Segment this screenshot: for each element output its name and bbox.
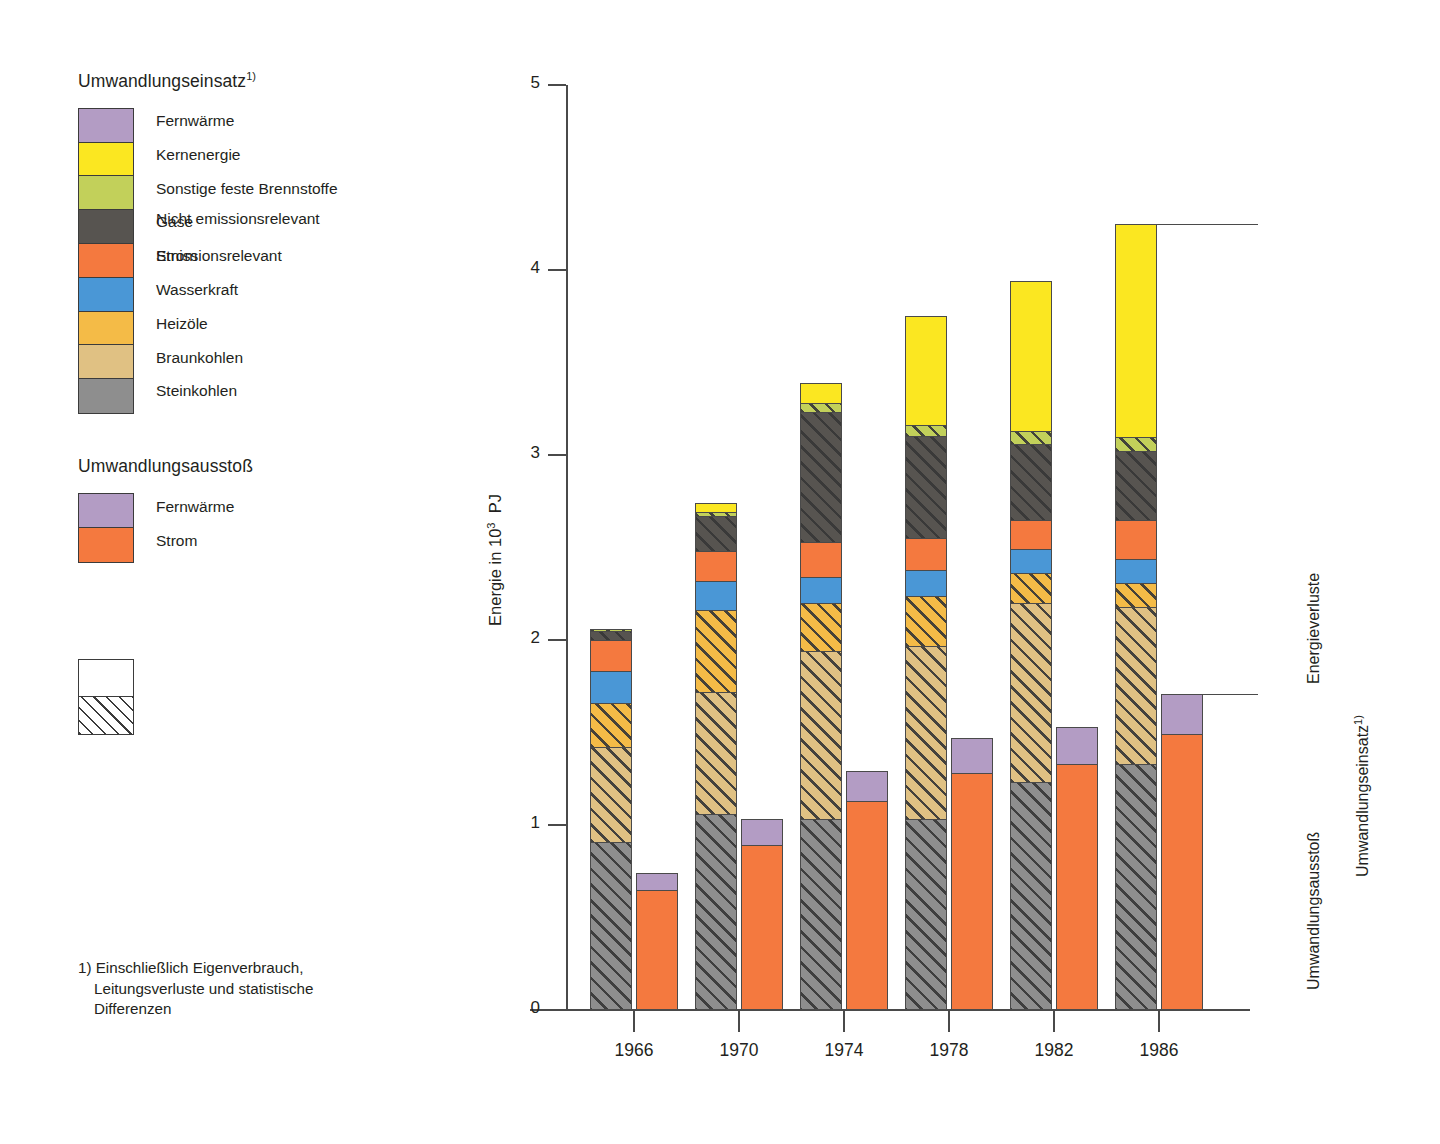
bar-segment-sonstige-feste-brennstoffe <box>906 426 946 437</box>
y-tick-label-1: 1 <box>512 813 540 833</box>
y-tick-1 <box>548 824 566 826</box>
output-bar-1974 <box>846 771 888 1010</box>
bar-segment-strom <box>696 552 736 582</box>
bar-segment-fernw-rme <box>1162 695 1202 736</box>
x-tick-1974 <box>843 1010 845 1032</box>
bar-segment-gase <box>801 413 841 543</box>
y-tick-3 <box>548 454 566 456</box>
annotation-umwandlungseinsatz-text: Umwandlungseinsatz <box>1354 725 1371 877</box>
y-axis-line <box>566 85 568 1011</box>
annotation-umwandlungsausstoss: Umwandlungsausstoß <box>1305 832 1323 990</box>
y-tick-label-2: 2 <box>512 628 540 648</box>
bar-segment-fernw-rme <box>1057 728 1097 765</box>
bar-segment-sonstige-feste-brennstoffe <box>1011 432 1051 445</box>
y-tick-5 <box>548 84 566 86</box>
bar-segment-strom <box>801 543 841 578</box>
y-tick-label-4: 4 <box>512 258 540 278</box>
input-bar-1970 <box>695 503 737 1010</box>
output-bar-1982 <box>1056 727 1098 1010</box>
bar-segment-strom <box>847 802 887 1010</box>
bar-segment-sonstige-feste-brennstoffe <box>801 404 841 413</box>
input-bar-1978 <box>905 316 947 1010</box>
bar-segment-gase <box>1116 452 1156 520</box>
x-tick-1970 <box>738 1010 740 1032</box>
y-tick-label-5: 5 <box>512 73 540 93</box>
bar-segment-strom <box>1011 521 1051 551</box>
bar-segment-kernenergie <box>801 384 841 404</box>
y-axis-exponent: 3 <box>485 523 497 529</box>
bar-segment-heiz-le <box>696 611 736 692</box>
y-axis-title-text: Energie in 10 <box>486 529 504 626</box>
bar-segment-wasserkraft <box>591 672 631 703</box>
bar-segment-steinkohlen <box>906 820 946 1010</box>
footnote-marker-2: 1) <box>1352 715 1364 725</box>
bar-segment-gase <box>1011 445 1051 521</box>
bar-segment-braunkohlen <box>591 748 631 842</box>
x-tick-1966 <box>633 1010 635 1032</box>
bar-segment-steinkohlen <box>696 815 736 1010</box>
bar-segment-strom <box>1162 735 1202 1010</box>
bar-segment-fernw-rme <box>847 772 887 802</box>
x-tick-label-1966: 1966 <box>589 1040 679 1061</box>
x-tick-label-1978: 1978 <box>904 1040 994 1061</box>
bar-segment-heiz-le <box>1116 584 1156 608</box>
bar-segment-braunkohlen <box>1116 608 1156 765</box>
bar-segment-fernw-rme <box>637 874 677 891</box>
bar-segment-braunkohlen <box>696 693 736 815</box>
bar-segment-strom <box>1057 765 1097 1010</box>
y-tick-0 <box>548 1009 566 1011</box>
bar-segment-kernenergie <box>1116 225 1156 438</box>
y-tick-4 <box>548 269 566 271</box>
bar-segment-braunkohlen <box>1011 604 1051 783</box>
bracket-total-input <box>1157 224 1258 225</box>
annotation-umwandlungseinsatz: Umwandlungseinsatz1) <box>1352 715 1372 877</box>
bar-segment-strom <box>1116 521 1156 560</box>
bar-segment-kernenergie <box>906 317 946 426</box>
bar-segment-gase <box>591 632 631 641</box>
bar-segment-steinkohlen <box>1116 765 1156 1010</box>
bar-segment-steinkohlen <box>801 820 841 1010</box>
input-bar-1982 <box>1010 281 1052 1010</box>
y-tick-label-0: 0 <box>512 998 540 1018</box>
bar-segment-steinkohlen <box>1011 783 1051 1010</box>
bar-segment-kernenergie <box>1011 282 1051 432</box>
bar-segment-fernw-rme <box>952 739 992 774</box>
x-tick-label-1970: 1970 <box>694 1040 784 1061</box>
bar-segment-wasserkraft <box>906 571 946 597</box>
x-tick-label-1982: 1982 <box>1009 1040 1099 1061</box>
bar-segment-gase <box>696 517 736 552</box>
bar-segment-heiz-le <box>906 597 946 647</box>
annotation-energieverluste: Energieverluste <box>1305 572 1323 683</box>
bar-segment-sonstige-feste-brennstoffe <box>1116 438 1156 453</box>
bar-segment-heiz-le <box>1011 574 1051 604</box>
bar-segment-wasserkraft <box>1011 550 1051 574</box>
bar-segment-wasserkraft <box>801 578 841 604</box>
input-bar-1986 <box>1115 224 1157 1010</box>
output-bar-1970 <box>741 819 783 1010</box>
bar-segment-strom <box>637 891 677 1010</box>
output-bar-1978 <box>951 738 993 1010</box>
bar-segment-strom <box>952 774 992 1010</box>
output-bar-1966 <box>636 873 678 1010</box>
y-axis-unit: PJ <box>486 494 504 513</box>
bar-segment-braunkohlen <box>906 647 946 821</box>
input-bar-1974 <box>800 383 842 1010</box>
y-axis-title: Energie in 103 PJ <box>485 494 506 626</box>
bar-segment-strom <box>906 539 946 570</box>
output-bar-1986 <box>1161 694 1203 1010</box>
bar-segment-heiz-le <box>801 604 841 652</box>
bar-segment-kernenergie <box>696 504 736 513</box>
bar-segment-gase <box>906 437 946 539</box>
bar-segment-wasserkraft <box>1116 560 1156 584</box>
x-tick-1986 <box>1158 1010 1160 1032</box>
bar-segment-braunkohlen <box>801 652 841 820</box>
y-tick-label-3: 3 <box>512 443 540 463</box>
bar-segment-wasserkraft <box>696 582 736 612</box>
x-tick-label-1986: 1986 <box>1114 1040 1204 1061</box>
x-tick-label-1974: 1974 <box>799 1040 889 1061</box>
bar-segment-strom <box>591 641 631 672</box>
bar-segment-strom <box>742 846 782 1010</box>
y-tick-2 <box>548 639 566 641</box>
bar-segment-steinkohlen <box>591 843 631 1010</box>
input-bar-1966 <box>590 629 632 1010</box>
